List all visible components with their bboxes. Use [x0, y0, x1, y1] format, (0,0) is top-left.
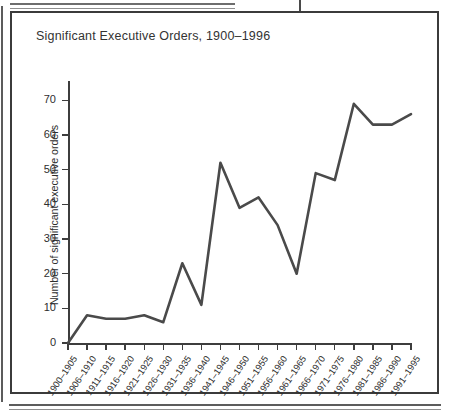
page-rule-bottom-secondary [9, 409, 441, 410]
page-rule-top [10, 3, 235, 5]
plot-area: Number of significant executive orders 0… [12, 13, 441, 396]
page-rule-bottom [9, 404, 441, 406]
page-margin-left-rule [1, 6, 3, 402]
figure-container: Significant Executive Orders, 1900–1996 … [10, 11, 439, 394]
line-series [12, 13, 441, 396]
page-rule-top-secondary [10, 8, 235, 9]
